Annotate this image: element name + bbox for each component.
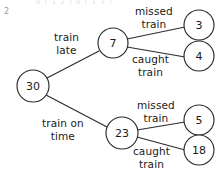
node-value-late-caught: 4: [196, 50, 203, 63]
tree-diagram: 0 ( 1 2 ) 0 ( 1 3 ) 2 3072334518 trainla…: [0, 0, 224, 174]
label-train-late-line1: train: [54, 31, 79, 44]
label-missed-train-2-line1: missed: [137, 99, 175, 112]
label-train-late: trainlate: [54, 31, 79, 56]
label-caught-train-1: caughttrain: [132, 53, 169, 78]
label-caught-train-2: caughttrain: [133, 145, 170, 170]
tree-node-ontime-missed: 5: [184, 105, 214, 135]
label-caught-train-1-line1: caught: [132, 53, 169, 66]
tree-node-late-caught: 4: [184, 41, 214, 71]
label-caught-train-2-line1: caught: [133, 145, 170, 158]
node-value-late: 7: [110, 37, 117, 50]
label-caught-train-1-line2: train: [132, 66, 169, 79]
node-value-ontime-caught: 18: [192, 144, 206, 157]
label-missed-train-2: missedtrain: [137, 99, 175, 124]
label-missed-train-1: missedtrain: [135, 5, 173, 30]
label-missed-train-2-line2: train: [137, 112, 175, 125]
node-value-ontime: 23: [115, 127, 129, 140]
label-missed-train-1-line1: missed: [135, 5, 173, 18]
label-caught-train-2-line2: train: [133, 158, 170, 171]
label-train-on-time-line2: time: [42, 130, 84, 143]
node-value-ontime-missed: 5: [196, 114, 203, 127]
label-missed-train-1-line2: train: [135, 18, 173, 31]
tree-canvas: 3072334518: [0, 0, 224, 174]
node-value-late-missed: 3: [196, 19, 203, 32]
label-train-on-time: train ontime: [42, 117, 84, 142]
tree-node-late: 7: [98, 28, 128, 58]
tree-node-root: 30: [17, 70, 49, 102]
tree-node-ontime-caught: 18: [184, 135, 214, 165]
label-train-on-time-line1: train on: [42, 117, 84, 130]
label-train-late-line2: late: [54, 44, 79, 57]
node-value-root: 30: [26, 80, 40, 93]
tree-node-late-missed: 3: [184, 10, 214, 40]
